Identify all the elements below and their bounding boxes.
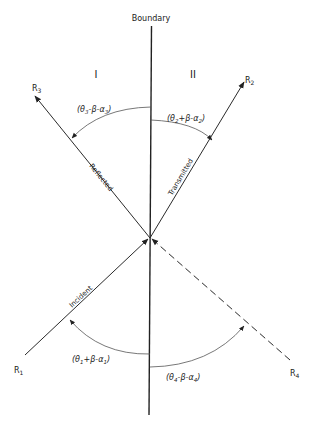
incident-label: Incident [68,284,94,309]
angle-label-1: (θ1+β-α1) [72,355,110,365]
reflected-label: Reflected [87,162,114,193]
fourth-ray-dashed [152,239,290,360]
transmitted-ray [150,82,244,238]
region-I-label: I [95,69,98,80]
ray-diagram: Boundary I II R1 R2 R3 R4 Reflected Tran… [0,0,317,422]
transmitted-label: Transmitted [166,157,195,198]
boundary-line [149,26,152,415]
r2-label: R2 [245,76,255,86]
angle-arc-2 [151,120,212,140]
angle-label-4: (θ4-β-α4) [166,373,200,383]
angle-arc-1 [70,320,150,354]
region-II-label: II [190,69,196,80]
r1-label: R1 [14,366,24,376]
angle-label-3: (θ3-β-α3) [77,105,111,115]
angle-arc-4 [150,326,244,367]
r3-label: R3 [32,84,42,94]
angle-label-2: (θ2+β-α2) [167,114,205,124]
boundary-label: Boundary [132,14,171,23]
r4-label: R4 [290,369,300,379]
